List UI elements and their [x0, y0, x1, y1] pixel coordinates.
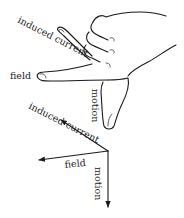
knuckle-crease — [110, 50, 114, 53]
hand-top-outline — [93, 12, 166, 22]
hand-label-field: field — [10, 70, 31, 81]
vector-label-field: field — [64, 157, 86, 170]
middle-fingernail — [40, 74, 46, 78]
palm-outline — [128, 45, 176, 76]
vector-label-motion: motion — [93, 167, 104, 200]
diagram-canvas: induced current field motion induced cur… — [0, 0, 184, 218]
knuckle-crease — [110, 38, 114, 41]
hand-label-motion: motion — [90, 89, 101, 122]
thumbnail — [108, 114, 112, 126]
middle-finger — [37, 64, 108, 81]
hand-illustration — [37, 12, 176, 129]
right-hand-rule-diagram: induced current field motion induced cur… — [0, 0, 184, 218]
thumb — [101, 78, 129, 129]
curled-finger-1 — [91, 22, 108, 40]
knuckle-crease — [106, 63, 110, 67]
hand-label-induced-current: induced current — [16, 14, 90, 59]
